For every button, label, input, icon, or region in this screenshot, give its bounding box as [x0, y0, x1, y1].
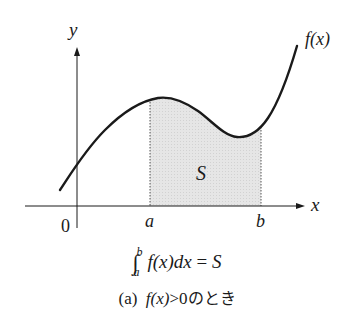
x-axis-arrow-icon: [296, 203, 305, 209]
y-axis-arrow-icon: [74, 47, 80, 56]
curve-label: f(x): [305, 30, 330, 48]
y-axis-label: y: [69, 20, 77, 39]
equals-sign: =: [192, 251, 212, 272]
figure-caption: (a) f(x)>0のとき: [0, 290, 354, 307]
upper-limit: b: [137, 246, 143, 258]
origin-label: 0: [61, 217, 70, 235]
integral-result: S: [212, 251, 222, 272]
shaded-area-S: [150, 98, 261, 206]
a-label: a: [145, 212, 154, 230]
caption-relation: >0: [169, 289, 187, 308]
x-axis-label: x: [311, 195, 319, 214]
caption-suffix: のとき: [188, 289, 236, 308]
b-label: b: [256, 212, 265, 230]
lower-limit: a: [134, 266, 140, 278]
caption-condition: f(x): [146, 289, 170, 308]
integral-formula: ∫baf(x)dx = S: [0, 250, 354, 274]
area-label-S: S: [196, 163, 206, 183]
integrand: f(x)dx: [148, 251, 192, 272]
integral-area-diagram: [0, 0, 354, 330]
caption-prefix: (a): [118, 289, 137, 308]
integral-limits: ba: [139, 254, 148, 274]
